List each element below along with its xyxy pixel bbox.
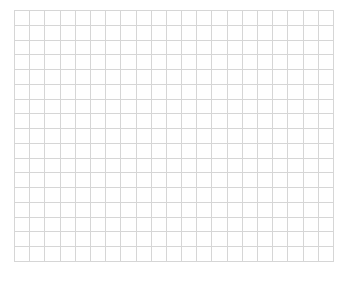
grid-lines (14, 10, 334, 262)
grid-canvas (14, 10, 334, 262)
